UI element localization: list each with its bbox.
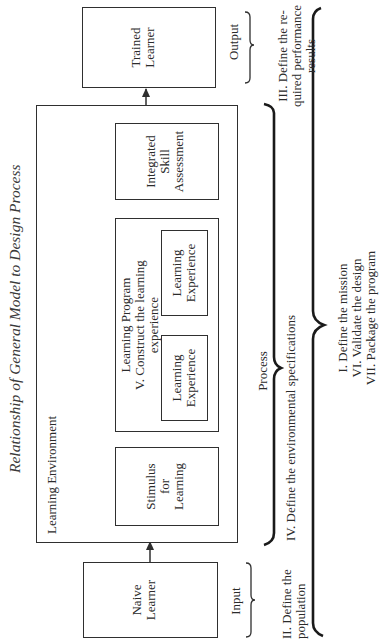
learning-experience-box-1: Learning Experience: [161, 335, 208, 421]
step-define-population: II. Define the population: [280, 539, 308, 639]
learning-experience-label-2: Learning Experience: [170, 231, 198, 315]
output-brace: [245, 12, 254, 83]
process-brace: [264, 104, 281, 545]
step-overall-mission-validate-package: I. Define the mission VI. Validate the d…: [336, 243, 378, 393]
diagram-canvas: Relationship of General Model to Design …: [0, 0, 390, 641]
output-stage-label: Output: [227, 17, 241, 67]
learning-experience-box-2: Learning Experience: [161, 230, 208, 316]
learning-program-label: Learning Program V. Construct the learni…: [119, 219, 161, 431]
input-stage-label: Input: [229, 581, 243, 621]
naive-learner-box: Naive Learner: [83, 562, 218, 638]
integrated-skill-assessment-box: Integrated Skill Assessment: [115, 123, 219, 200]
process-stage-label: Process: [256, 341, 270, 401]
stimulus-for-learning-box: Stimulus for Learning: [115, 447, 219, 526]
learning-environment-label: Learning Environment: [45, 416, 59, 534]
step-define-performance-results: III. Define the re- quired performance r…: [276, 1, 318, 111]
naive-learner-label: Naive Learner: [130, 563, 158, 637]
learning-experience-label-1: Learning Experience: [170, 336, 198, 420]
stimulus-label: Stimulus for Learning: [144, 448, 186, 525]
trained-learner-box: Trained Learner: [82, 7, 216, 88]
step-define-environmental-specs: IV. Define the environmental specificati…: [284, 211, 298, 541]
trained-learner-label: Trained Learner: [129, 8, 157, 87]
input-brace: [246, 563, 255, 637]
integrated-skill-assessment-label: Integrated Skill Assessment: [144, 124, 186, 199]
